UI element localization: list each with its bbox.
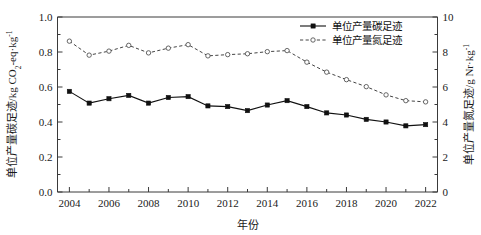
data-point-nitrogen-2004: [67, 39, 71, 43]
data-point-carbon-2016: [305, 105, 309, 109]
data-point-carbon-2005: [87, 101, 91, 105]
data-point-nitrogen-2006: [107, 49, 111, 53]
legend-marker-nitrogen: [311, 38, 315, 42]
x-tick-label-2014: 2014: [256, 197, 279, 209]
chart-legend: 单位产量碳足迹单位产量氮足迹: [300, 20, 403, 46]
x-tick-label-2006: 2006: [98, 197, 121, 209]
y-tick-label-right-8: 8: [443, 46, 449, 58]
data-point-nitrogen-2016: [305, 60, 309, 64]
legend-label-nitrogen: 单位产量氮足迹: [332, 34, 403, 46]
x-tick-label-2022: 2022: [415, 197, 437, 209]
y-tick-label-right-10: 10: [443, 11, 455, 23]
x-tick-label-2020: 2020: [375, 197, 398, 209]
dual-axis-line-chart: 0.00.20.40.60.81.00246810200420062008201…: [0, 0, 481, 235]
data-point-carbon-2020: [384, 120, 388, 124]
data-point-carbon-2004: [67, 89, 71, 93]
y-tick-label-right-2: 2: [443, 151, 449, 163]
x-tick-label-2008: 2008: [138, 197, 161, 209]
y-tick-label-left-0.6: 0.6: [39, 81, 53, 93]
data-point-carbon-2009: [166, 95, 170, 99]
data-point-nitrogen-2019: [364, 84, 368, 88]
x-axis-title: 年份: [237, 218, 259, 231]
data-point-nitrogen-2005: [87, 53, 91, 57]
data-point-nitrogen-2014: [265, 49, 269, 53]
legend-marker-carbon: [311, 24, 315, 28]
chart-plot-area: [67, 39, 428, 128]
y-tick-label-right-4: 4: [443, 116, 449, 128]
y-tick-label-left-1.0: 1.0: [39, 11, 53, 23]
legend-label-carbon: 单位产量碳足迹: [332, 20, 403, 32]
data-point-nitrogen-2015: [285, 48, 289, 52]
data-point-nitrogen-2008: [146, 51, 150, 55]
data-point-carbon-2007: [127, 93, 131, 97]
y-tick-label-right-6: 6: [443, 81, 449, 93]
data-point-nitrogen-2020: [384, 93, 388, 97]
x-tick-label-2018: 2018: [335, 197, 358, 209]
data-point-carbon-2006: [107, 97, 111, 101]
data-point-nitrogen-2011: [206, 54, 210, 58]
y-tick-label-left-0.0: 0.0: [39, 186, 53, 198]
data-point-carbon-2011: [206, 104, 210, 108]
series-line-nitrogen: [69, 41, 425, 102]
chart-figure: 0.00.20.40.60.81.00246810200420062008201…: [0, 0, 481, 235]
x-tick-label-2010: 2010: [177, 197, 200, 209]
data-point-carbon-2010: [186, 95, 190, 99]
data-point-nitrogen-2021: [404, 98, 408, 102]
data-point-nitrogen-2017: [324, 70, 328, 74]
y-tick-label-right-0: 0: [443, 186, 449, 198]
y-tick-label-left-0.2: 0.2: [39, 151, 53, 163]
y-axis-title-left: 单位产量碳足迹/kg CO2-eq·kg-1: [5, 30, 23, 178]
y-axis-title-right: 单位产量氮足迹/g Nr·kg-1: [462, 44, 476, 165]
data-point-nitrogen-2010: [186, 42, 190, 46]
data-point-carbon-2021: [404, 124, 408, 128]
data-point-nitrogen-2018: [344, 77, 348, 81]
data-point-carbon-2022: [424, 123, 428, 127]
data-point-carbon-2017: [325, 111, 329, 115]
data-point-nitrogen-2007: [127, 43, 131, 47]
data-point-carbon-2018: [344, 113, 348, 117]
data-point-carbon-2015: [285, 99, 289, 103]
data-point-carbon-2012: [226, 105, 230, 109]
data-point-carbon-2019: [364, 117, 368, 121]
data-point-nitrogen-2022: [423, 100, 427, 104]
y-tick-label-left-0.8: 0.8: [39, 46, 53, 58]
data-point-nitrogen-2012: [226, 52, 230, 56]
x-tick-label-2012: 2012: [217, 197, 239, 209]
data-point-nitrogen-2013: [245, 52, 249, 56]
data-point-carbon-2014: [265, 103, 269, 107]
data-point-carbon-2008: [146, 101, 150, 105]
x-tick-label-2016: 2016: [296, 197, 319, 209]
data-point-nitrogen-2009: [166, 46, 170, 50]
data-point-carbon-2013: [245, 109, 249, 113]
x-tick-label-2004: 2004: [58, 197, 81, 209]
y-tick-label-left-0.4: 0.4: [39, 116, 53, 128]
